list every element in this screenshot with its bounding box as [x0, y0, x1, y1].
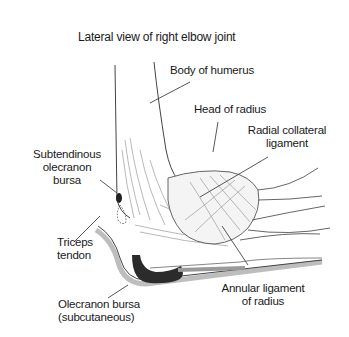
label-line: bursa: [22, 174, 112, 187]
elbow-diagram: Lateral view of right elbow joint Body o…: [0, 0, 349, 337]
label-radial-collateral-ligament: Radial collateral ligament: [222, 124, 349, 150]
radial-head: [168, 171, 259, 244]
label-line: of radius: [208, 295, 318, 308]
label-body-of-humerus: Body of humerus: [170, 64, 254, 77]
label-line: Olecranon bursa: [58, 298, 140, 311]
label-olecranon-bursa: Olecranon bursa (subcutaneous): [58, 298, 140, 324]
label-line: Radial collateral: [222, 124, 349, 137]
label-text: Body of humerus: [170, 64, 254, 76]
label-line: Triceps: [57, 236, 93, 249]
title-text: Lateral view of right elbow joint: [78, 30, 236, 44]
diagram-title: Lateral view of right elbow joint: [78, 31, 236, 44]
olecranon-bursa-shape: [132, 255, 183, 283]
subtendinous-bursa-shape: [116, 193, 126, 224]
label-line: Subtendinous: [22, 148, 112, 161]
label-line: olecranon: [22, 161, 112, 174]
label-line: ligament: [222, 137, 349, 150]
label-subtendinous-olecranon-bursa: Subtendinous olecranon bursa: [22, 148, 112, 187]
label-line: Annular ligament: [208, 282, 318, 295]
label-annular-ligament-of-radius: Annular ligament of radius: [208, 282, 318, 308]
label-triceps-tendon: Triceps tendon: [57, 236, 93, 262]
label-line: tendon: [57, 249, 93, 262]
label-text: Head of radius: [194, 103, 266, 115]
label-head-of-radius: Head of radius: [194, 103, 266, 116]
label-line: (subcutaneous): [58, 311, 140, 324]
